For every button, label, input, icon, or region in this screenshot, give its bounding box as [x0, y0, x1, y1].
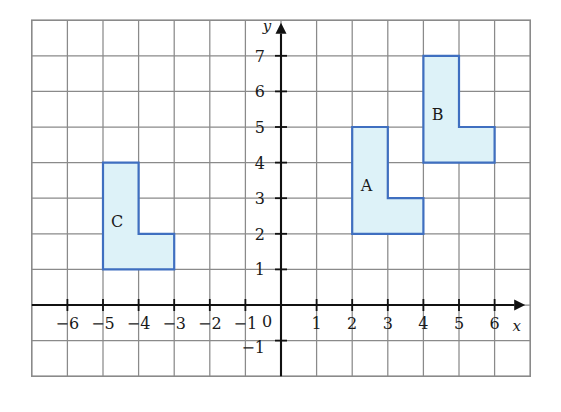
y-tick-label: 4 — [255, 154, 265, 173]
y-axis-arrow-icon — [276, 23, 287, 34]
x-axis-label: x — [512, 317, 521, 335]
y-tick-label: −1 — [241, 338, 265, 357]
x-axis-tick-labels: −6−5−4−3−2−1123456 — [56, 314, 500, 333]
x-tick-label: 2 — [347, 314, 357, 333]
x-tick-label: 6 — [490, 314, 500, 333]
y-tick-label: 3 — [255, 189, 265, 208]
figure-canvas: −6−5−4−3−2−1123456 −11234567 0 x y ABC — [0, 0, 561, 412]
y-tick-label: 6 — [255, 82, 265, 101]
x-tick-label: −3 — [162, 314, 186, 333]
y-tick-label: 1 — [255, 260, 265, 279]
x-tick-label: −6 — [56, 314, 80, 333]
origin-label: 0 — [262, 312, 272, 331]
x-axis-arrow-icon — [514, 300, 525, 311]
x-tick-label: −5 — [91, 314, 115, 333]
coordinate-grid-plot: −6−5−4−3−2−1123456 −11234567 0 x y ABC — [0, 0, 561, 412]
x-tick-label: −2 — [198, 314, 222, 333]
x-tick-label: 3 — [383, 314, 393, 333]
y-tick-label: 5 — [255, 118, 265, 137]
x-tick-label: 1 — [312, 314, 322, 333]
y-tick-label: 7 — [255, 47, 265, 66]
shape-label-c: C — [111, 212, 123, 231]
shape-label-a: A — [360, 176, 373, 195]
y-axis-label: y — [262, 17, 272, 35]
x-tick-label: −4 — [127, 314, 151, 333]
x-tick-label: −1 — [234, 314, 258, 333]
x-tick-label: 5 — [454, 314, 464, 333]
shape-label-b: B — [432, 105, 444, 124]
y-tick-label: 2 — [255, 225, 265, 244]
x-tick-label: 4 — [418, 314, 428, 333]
